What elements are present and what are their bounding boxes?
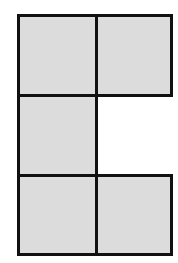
square-r0-c0 xyxy=(17,14,98,97)
square-r1-c0 xyxy=(17,94,98,177)
square-r2-c1 xyxy=(95,174,173,256)
square-r2-c0 xyxy=(17,174,98,256)
square-r0-c1 xyxy=(95,14,173,97)
